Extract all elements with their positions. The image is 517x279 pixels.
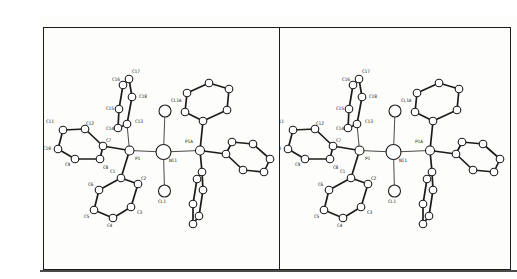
atom-D1	[199, 117, 207, 125]
atom-label-C15: C15	[106, 106, 114, 111]
atom-E2	[228, 138, 236, 146]
atom-label-C8: C8	[103, 165, 109, 170]
atom-label-P1A: P1A	[415, 139, 423, 144]
atom-label-C16: C16	[342, 77, 350, 82]
atom-F1	[428, 168, 436, 176]
atom-C12	[81, 125, 89, 133]
atom-label-C16: C16	[112, 77, 120, 82]
atom-label-C12: C12	[86, 121, 94, 126]
atom-C2	[134, 180, 142, 188]
atom-D1	[429, 117, 437, 125]
atom-C8	[326, 155, 334, 163]
atom-P1	[355, 146, 364, 155]
atom-C4	[109, 214, 117, 222]
atom-D3	[183, 89, 191, 97]
atom-label-C18: C18	[139, 94, 147, 99]
atom-D2	[411, 108, 419, 116]
atom-C1	[347, 174, 355, 182]
atom-C5	[90, 206, 98, 214]
atom-C16	[349, 81, 357, 89]
atom-C15	[345, 105, 353, 113]
atom-label-P1: P1	[135, 156, 141, 161]
atom-label-C3: C3	[137, 210, 143, 215]
atom-C7	[329, 142, 337, 150]
atom-C10	[284, 145, 292, 153]
atom-label-C7: C7	[106, 138, 112, 143]
atom-C3	[127, 203, 135, 211]
atom-C12	[311, 125, 319, 133]
atom-F4	[189, 220, 197, 228]
atom-C6	[325, 186, 333, 194]
atom-label-C18: C18	[369, 94, 377, 99]
atom-label-C7: C7	[336, 138, 342, 143]
atom-label-C5: C5	[84, 214, 90, 219]
atom-F4	[419, 220, 427, 228]
atom-E3	[249, 140, 257, 148]
atom-C13	[123, 120, 131, 128]
atom-D2	[181, 108, 189, 116]
atom-F1	[198, 168, 206, 176]
atom-C13	[353, 120, 361, 128]
atom-label-C11: C11	[46, 119, 54, 124]
atom-D4	[435, 79, 443, 87]
atom-C14	[344, 124, 352, 132]
atom-label-C17: C17	[132, 69, 140, 74]
atom-C7	[99, 142, 107, 150]
atom-label-CL1A: CL1A	[401, 98, 412, 103]
atom-label-CL1: CL1	[158, 199, 166, 204]
atom-F2	[429, 186, 437, 194]
atom-label-C14: C14	[336, 126, 344, 131]
atom-E6	[239, 166, 247, 174]
atom-C1	[117, 174, 125, 182]
atom-CL1	[389, 185, 401, 197]
atom-C3	[357, 203, 365, 211]
atom-C11	[59, 126, 67, 134]
atom-E1	[452, 150, 460, 158]
atom-F5	[189, 200, 197, 208]
atom-E5	[490, 168, 498, 176]
atom-label-C17: C17	[362, 69, 370, 74]
atom-C17	[355, 75, 363, 83]
atom-label-P1: P1	[365, 156, 371, 161]
atom-F6	[423, 175, 431, 183]
atom-label-C9: C9	[65, 162, 71, 167]
atom-C18	[358, 93, 366, 101]
atom-label-C4: C4	[337, 223, 343, 228]
atom-label-NI1: NI1	[399, 158, 407, 163]
atom-CL1A	[389, 105, 401, 117]
atom-label-C5: C5	[314, 214, 320, 219]
atom-E4	[266, 155, 274, 163]
atom-C14	[114, 124, 122, 132]
atom-D5	[225, 85, 233, 93]
atom-D6	[223, 106, 231, 114]
atom-label-C1: C1	[340, 169, 346, 174]
atom-label-C13: C13	[365, 119, 373, 124]
atom-label-C15: C15	[336, 106, 344, 111]
atom-E2	[458, 138, 466, 146]
atom-label-CL1: CL1	[388, 199, 396, 204]
atom-E1	[222, 150, 230, 158]
atom-E5	[260, 168, 268, 176]
atom-F2	[199, 186, 207, 194]
atom-label-C4: C4	[107, 223, 113, 228]
atom-label-C10: C10	[43, 146, 51, 151]
atom-F3	[425, 212, 433, 220]
atom-C18	[128, 93, 136, 101]
atom-D5	[455, 85, 463, 93]
atom-D4	[205, 79, 213, 87]
atom-F5	[419, 200, 427, 208]
atom-label-NI1: NI1	[169, 158, 177, 163]
atom-label-C2: C2	[141, 176, 147, 181]
atom-E3	[479, 140, 487, 148]
atom-label-C13: C13	[135, 119, 143, 124]
atom-CL1A	[159, 105, 171, 117]
photo-background	[40, 16, 517, 275]
atom-C15	[115, 105, 123, 113]
atom-label-C6: C6	[318, 182, 324, 187]
atom-D3	[413, 89, 421, 97]
atom-label-CL1A: CL1A	[171, 98, 182, 103]
atom-F3	[195, 212, 203, 220]
atom-C11	[289, 126, 297, 134]
atom-E6	[469, 166, 477, 174]
atom-C6	[95, 186, 103, 194]
